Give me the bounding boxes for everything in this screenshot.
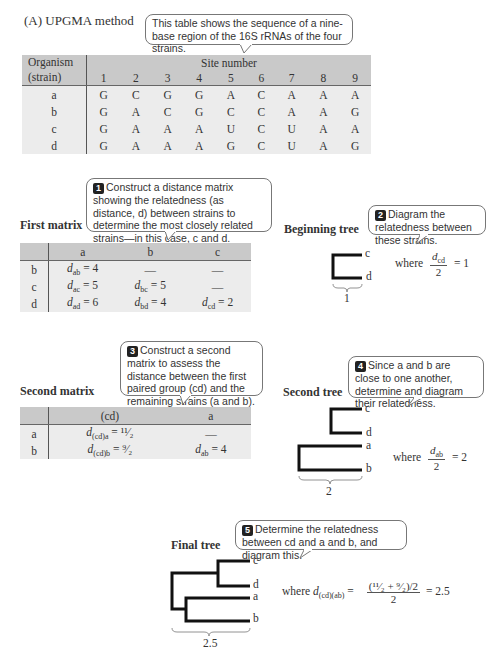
scale-brace [172, 628, 250, 636]
callout-tail [408, 398, 422, 406]
scale-brace [299, 476, 362, 484]
callout-tail [165, 231, 176, 240]
ab-branches [186, 598, 250, 621]
callout-tails [165, 44, 428, 558]
cd-branches [331, 409, 362, 433]
callout-tail [180, 395, 191, 404]
callout-tail [300, 550, 312, 558]
root-branches [172, 573, 218, 609]
callout-tail [416, 235, 428, 244]
diagram-lines [0, 0, 497, 658]
callout-tail [240, 44, 252, 53]
scale-brace [333, 284, 362, 292]
ab-branches [299, 446, 362, 470]
cd-branches [218, 561, 250, 586]
beginning-tree-branches [333, 255, 362, 278]
